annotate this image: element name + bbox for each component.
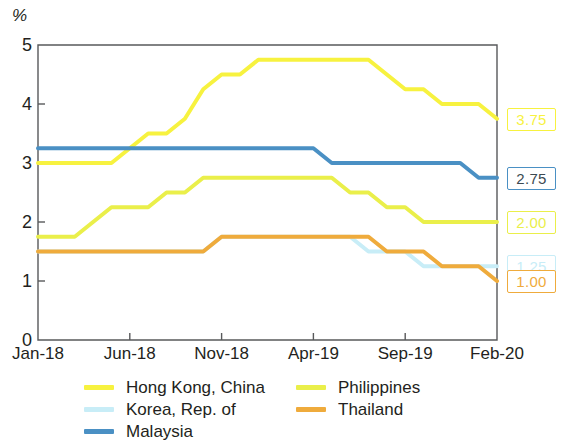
y-axis-tick-3: 3 [6,154,32,172]
legend-item-thailand: Thailand [296,398,420,420]
series-lines [38,60,497,281]
end-value-label-thailand: 1.00 [507,270,556,293]
x-axis-tick-jan-18: Jan-18 [0,345,83,363]
y-axis-tick-5: 5 [6,36,32,54]
legend-item-hong-kong-china: Hong Kong, China [84,376,265,398]
policy-rate-line-chart: % 012345 Jan-18Jun-18Nov-18Apr-19Sep-19F… [0,0,562,442]
y-axis-tick-1: 1 [6,272,32,290]
x-axis-tick-feb-20: Feb-20 [452,345,542,363]
legend-item-philippines: Philippines [296,376,420,398]
legend-label: Thailand [338,400,403,419]
legend-swatch-icon [296,385,326,390]
legend-item-korea-rep-of: Korea, Rep. of [84,398,265,420]
x-axis-tick-nov-18: Nov-18 [177,345,267,363]
y-axis-tick-2: 2 [6,213,32,231]
legend-column-1: Hong Kong, ChinaKorea, Rep. ofMalaysia [84,376,265,442]
chart-legend: Hong Kong, ChinaKorea, Rep. ofMalaysia P… [0,376,562,442]
legend-item-malaysia: Malaysia [84,420,265,442]
legend-label: Philippines [338,378,420,397]
legend-label: Hong Kong, China [126,378,265,397]
y-axis-tick-4: 4 [6,95,32,113]
series-line-thailand [38,237,497,281]
legend-swatch-icon [84,429,114,434]
x-axis-tick-sep-19: Sep-19 [360,345,450,363]
legend-label: Korea, Rep. of [126,400,236,419]
end-value-label-hong-kong-china: 3.75 [507,108,556,131]
end-value-label-malaysia: 2.75 [507,167,556,190]
legend-column-2: PhilippinesThailand [296,376,420,420]
x-axis-tick-jun-18: Jun-18 [85,345,175,363]
end-value-label-philippines: 2.00 [507,211,556,234]
x-axis-tick-apr-19: Apr-19 [268,345,358,363]
legend-label: Malaysia [126,422,193,441]
axis-lines [38,45,497,340]
legend-swatch-icon [84,407,114,412]
legend-swatch-icon [296,407,326,412]
series-line-philippines [38,178,497,237]
legend-swatch-icon [84,385,114,390]
